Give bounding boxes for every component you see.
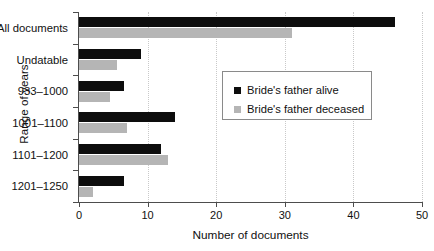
category-label: 1101–1200 [12, 149, 68, 161]
y-axis-tick [73, 44, 79, 45]
gridline [148, 12, 149, 202]
y-axis-tick [73, 75, 79, 76]
bar-chart: Range of years All documentsUndatable933… [0, 0, 434, 251]
bar [79, 187, 93, 197]
x-axis-tick-label: 40 [347, 209, 359, 221]
legend-item[interactable]: Bride's father alive [234, 85, 339, 96]
y-axis-tick [73, 12, 79, 13]
category-label: Undatable [16, 54, 68, 66]
legend-swatch-icon [234, 106, 241, 113]
x-axis-tick-label: 30 [279, 209, 291, 221]
bar [79, 17, 395, 27]
category-label: 1001–1100 [12, 117, 68, 129]
x-axis-title: Number of documents [79, 228, 422, 242]
category-label: All documents [0, 22, 68, 34]
gridline [422, 12, 423, 202]
y-axis-tick [73, 139, 79, 140]
x-axis-tick [285, 202, 286, 207]
category-label: 1201–1250 [11, 180, 68, 192]
bar [79, 112, 175, 122]
x-axis-tick-label: 0 [76, 209, 82, 221]
legend-swatch-icon [234, 87, 241, 94]
gridline [216, 12, 217, 202]
bar [79, 155, 168, 165]
x-axis-tick [353, 202, 354, 207]
category-axis-labels: All documentsUndatable933–10001001–11001… [0, 12, 72, 202]
y-axis-tick [73, 170, 79, 171]
x-axis-tick [148, 202, 149, 207]
bar [79, 92, 110, 102]
x-axis-tick [422, 202, 423, 207]
bar [79, 49, 141, 59]
legend-label: Bride's father alive [247, 85, 339, 96]
chart-legend: Bride's father aliveBride's father decea… [222, 71, 372, 120]
bar [79, 123, 127, 133]
x-axis-tick-label: 50 [416, 209, 428, 221]
legend-item[interactable]: Bride's father deceased [234, 104, 364, 115]
bar [79, 60, 117, 70]
x-axis-tick [79, 202, 80, 207]
x-axis-tick [216, 202, 217, 207]
bar [79, 144, 161, 154]
legend-label: Bride's father deceased [247, 104, 364, 115]
y-axis-tick [73, 202, 79, 203]
bar [79, 176, 124, 186]
x-axis-line [78, 202, 423, 203]
x-axis-tick-label: 10 [141, 209, 153, 221]
x-axis-tick-label: 20 [210, 209, 222, 221]
category-label: 933–1000 [18, 85, 68, 97]
y-axis-tick [73, 107, 79, 108]
bar [79, 28, 292, 38]
bar [79, 81, 124, 91]
